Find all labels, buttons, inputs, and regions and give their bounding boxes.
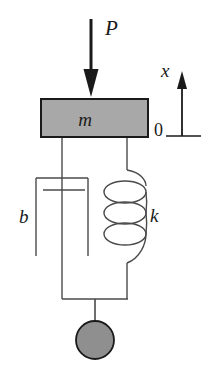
displacement-axis-label: x	[160, 60, 170, 81]
axis-arrow-head	[177, 71, 187, 89]
spring-strand-2	[146, 213, 147, 234]
schematic-canvas: P m b k x 0	[0, 0, 208, 365]
mass-label: m	[78, 109, 92, 130]
spring-strand-1	[146, 192, 147, 213]
ground-ball	[76, 321, 114, 359]
force-arrow-head	[84, 69, 99, 97]
mass-spring-damper-figure: P m b k x 0	[0, 0, 208, 365]
spring-lead-in	[127, 170, 146, 186]
force-label: P	[104, 16, 118, 40]
spring-coil-3	[104, 223, 146, 245]
connecting-rods	[62, 137, 127, 299]
spring-coil-2	[104, 202, 146, 224]
spring-element	[104, 170, 147, 263]
origin-label: 0	[154, 120, 163, 140]
stiffness-label: k	[150, 205, 159, 226]
spring-lead-out	[127, 234, 146, 263]
displacement-axis	[166, 71, 201, 136]
mass-block	[41, 99, 148, 137]
spring-coil-1	[104, 181, 146, 203]
force-arrow-P	[84, 19, 99, 97]
base-assembly	[62, 299, 128, 359]
damping-label: b	[19, 206, 29, 227]
